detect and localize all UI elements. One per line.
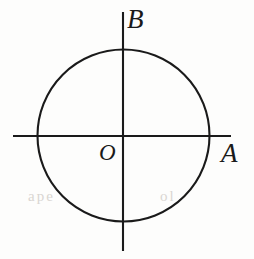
figure-container: ape ol B A O	[0, 0, 254, 259]
label-point-a: A	[221, 140, 238, 167]
label-origin-o: O	[99, 141, 116, 164]
circle-axes-diagram	[0, 0, 254, 259]
label-point-b: B	[127, 6, 144, 33]
